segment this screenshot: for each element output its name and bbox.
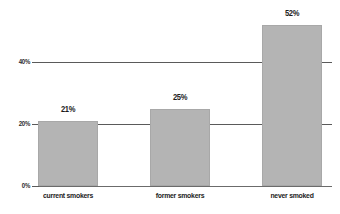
bar-never-smoked[interactable]: [262, 25, 322, 186]
category-label-former-smokers: former smokers: [146, 191, 215, 200]
plot-area: 40% 20% 0% 21% 25% 52% current smokers f…: [0, 0, 340, 214]
ytick-label-40: 40%: [11, 58, 30, 66]
bar-current-smokers[interactable]: [38, 121, 98, 186]
tick-stub-0: [32, 186, 39, 187]
bar-value-never-smoked: 52%: [267, 8, 317, 18]
ytick-label-20: 20%: [11, 120, 30, 128]
tick-stub-40: [32, 62, 39, 63]
category-label-never-smoked: never smoked: [258, 191, 327, 200]
bar-value-current-smokers: 21%: [43, 104, 93, 114]
bar-value-former-smokers: 25%: [155, 92, 205, 102]
bar-former-smokers[interactable]: [150, 109, 210, 186]
category-label-current-smokers: current smokers: [34, 191, 103, 200]
axis-baseline: [38, 186, 332, 187]
ytick-label-0: 0%: [11, 182, 30, 190]
bar-chart: 40% 20% 0% 21% 25% 52% current smokers f…: [0, 0, 340, 214]
